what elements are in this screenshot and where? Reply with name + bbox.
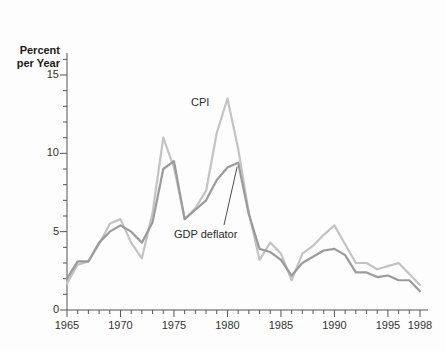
chart-annotation-leaders (224, 167, 237, 225)
chart-series-group (67, 99, 420, 292)
chart-plot-area (0, 0, 445, 351)
chart-figure: Percent per Year 051015 1965197019751980… (0, 0, 445, 351)
annotation-leader-gdp-deflator (224, 167, 237, 225)
